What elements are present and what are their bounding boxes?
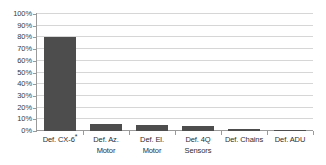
bar-series	[37, 14, 313, 131]
bar	[90, 124, 122, 131]
y-axis-tick-label: 10%	[2, 115, 32, 123]
y-axis-tick-label: 0%	[2, 127, 32, 135]
y-axis-tick	[33, 131, 37, 132]
bar	[274, 130, 306, 131]
x-axis-tick	[313, 131, 314, 135]
y-axis-tick-label: 100%	[2, 10, 32, 18]
y-axis-tick-label: 90%	[2, 22, 32, 30]
bar-slot	[83, 14, 129, 131]
bar-slot	[175, 14, 221, 131]
x-axis-category-label: Def. Az. Motor	[83, 135, 129, 156]
x-axis-category-label: Def. CX-6*	[37, 135, 83, 146]
y-axis-tick-label: 40%	[2, 80, 32, 88]
bar-slot	[221, 14, 267, 131]
y-axis-tick-label: 80%	[2, 33, 32, 41]
y-axis-labels: 100%90%80%70%60%50%40%30%20%10%0%	[0, 0, 32, 165]
y-axis-tick-label: 30%	[2, 92, 32, 100]
x-axis-category-label: Def. 4Q Sensors	[175, 135, 221, 156]
x-axis-labels: Def. CX-6*Def. Az. MotorDef. El. MotorDe…	[37, 135, 313, 165]
bar-slot	[129, 14, 175, 131]
y-axis-tick-label: 50%	[2, 69, 32, 77]
x-axis-category-label: Def. El. Motor	[129, 135, 175, 156]
bar	[182, 126, 214, 131]
bar	[44, 37, 76, 131]
bar-slot	[267, 14, 313, 131]
bar-chart: 100%90%80%70%60%50%40%30%20%10%0% Def. C…	[0, 0, 326, 165]
x-axis-category-label: Def. Chains	[221, 135, 267, 146]
y-axis-tick-label: 60%	[2, 57, 32, 65]
bar	[228, 129, 260, 131]
x-axis-category-label: Def. ADU	[267, 135, 313, 146]
bar	[136, 125, 168, 131]
bar-slot	[37, 14, 83, 131]
y-axis-tick-label: 20%	[2, 104, 32, 112]
y-axis-tick-label: 70%	[2, 45, 32, 53]
